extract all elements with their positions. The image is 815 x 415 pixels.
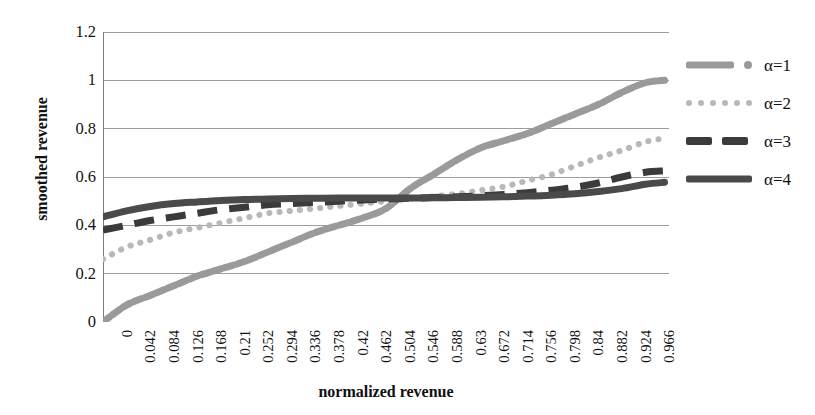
x-tick-label: 0.672 bbox=[497, 330, 512, 363]
legend-swatch bbox=[686, 172, 758, 186]
x-tick-label: 0.714 bbox=[521, 330, 536, 363]
y-tick-label: 0.6 bbox=[52, 169, 96, 186]
x-tick-label: 0.504 bbox=[403, 330, 418, 363]
y-axis-tick-labels: 00.20.40.60.811.2 bbox=[50, 0, 96, 415]
x-tick-label: 0.042 bbox=[143, 330, 158, 363]
y-tick-label: 0.8 bbox=[52, 120, 96, 137]
x-tick-label: 0.168 bbox=[214, 330, 229, 363]
y-tick-label: 0 bbox=[52, 314, 96, 331]
x-tick-label: 0.882 bbox=[615, 330, 630, 363]
x-tick-label: 0.588 bbox=[450, 330, 465, 363]
legend-swatch bbox=[686, 58, 758, 72]
x-tick-label: 0.546 bbox=[426, 330, 441, 363]
legend-swatch bbox=[686, 134, 758, 148]
x-tick-label: 0.252 bbox=[261, 330, 276, 363]
y-tick-label: 0.4 bbox=[52, 217, 96, 234]
x-tick-label: 0.966 bbox=[662, 330, 677, 363]
legend-dot-swatch bbox=[698, 100, 704, 106]
y-axis-title: smoothed revenue bbox=[33, 49, 51, 269]
x-tick-label: 0.294 bbox=[285, 330, 300, 363]
legend-label: α=3 bbox=[764, 133, 791, 150]
chart-container: smoothed revenue 00.20.40.60.811.2 00.04… bbox=[0, 0, 815, 415]
x-axis-title: normalized revenue bbox=[103, 383, 669, 401]
legend-dot-swatch bbox=[734, 100, 740, 106]
legend-line-swatch bbox=[686, 62, 734, 69]
chart-legend: α=1α=2α=3α=4 bbox=[686, 52, 812, 212]
x-tick-label: 0.924 bbox=[639, 330, 654, 363]
plot-area bbox=[103, 32, 669, 322]
x-tick-label: 0.462 bbox=[379, 330, 394, 363]
legend-item-3[interactable]: α=3 bbox=[686, 128, 812, 154]
legend-label: α=4 bbox=[764, 171, 791, 188]
x-tick-label: 0.336 bbox=[308, 330, 323, 363]
legend-dot-swatch bbox=[746, 100, 752, 106]
x-tick-label: 0.42 bbox=[356, 330, 371, 355]
legend-line-swatch bbox=[686, 176, 752, 183]
x-tick-label: 0.798 bbox=[568, 330, 583, 363]
legend-dash-swatch bbox=[686, 137, 712, 145]
x-tick-label: 0.84 bbox=[591, 330, 606, 355]
legend-label: α=1 bbox=[764, 57, 791, 74]
legend-dot-swatch bbox=[722, 100, 728, 106]
y-tick-label: 1 bbox=[52, 72, 96, 89]
x-tick-label: 0.756 bbox=[544, 330, 559, 363]
legend-dot-swatch bbox=[710, 100, 716, 106]
legend-item-2[interactable]: α=2 bbox=[686, 90, 812, 116]
y-tick-label: 0.2 bbox=[52, 265, 96, 282]
legend-swatch bbox=[686, 96, 758, 110]
legend-dot-swatch bbox=[686, 100, 692, 106]
x-tick-label: 0.21 bbox=[238, 330, 253, 355]
x-tick-label: 0.126 bbox=[191, 330, 206, 363]
y-tick-label: 1.2 bbox=[52, 24, 96, 41]
legend-dash-swatch bbox=[722, 137, 748, 145]
x-axis-tick-labels: 00.0420.0840.1260.1680.210.2520.2940.336… bbox=[103, 326, 669, 386]
legend-item-1[interactable]: α=1 bbox=[686, 52, 812, 78]
plot-svg bbox=[103, 32, 669, 322]
legend-item-4[interactable]: α=4 bbox=[686, 166, 812, 192]
x-tick-label: 0.378 bbox=[332, 330, 347, 363]
x-tick-label: 0 bbox=[120, 330, 135, 337]
x-tick-label: 0.084 bbox=[167, 330, 182, 363]
x-tick-label: 0.63 bbox=[474, 330, 489, 355]
legend-label: α=2 bbox=[764, 95, 791, 112]
legend-dot-swatch bbox=[744, 61, 752, 69]
